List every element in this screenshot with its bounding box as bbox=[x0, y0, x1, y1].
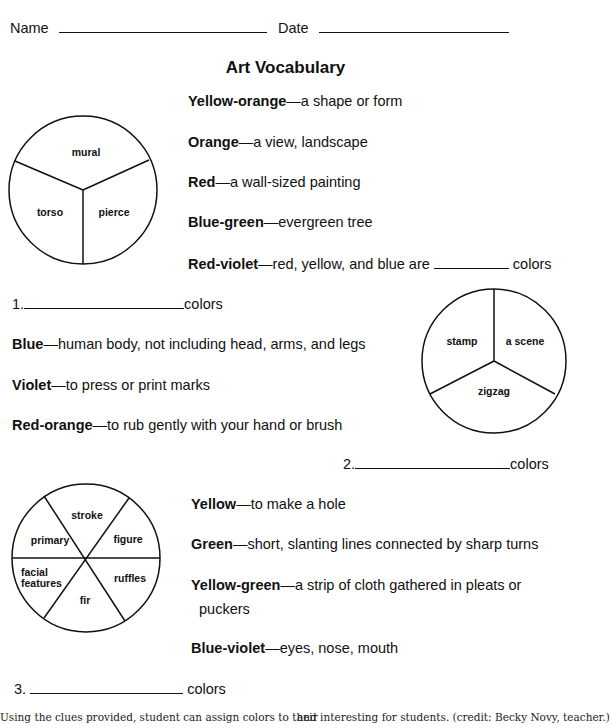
definition-suffix: colors bbox=[513, 256, 552, 272]
wheel3-segment-top-left[interactable]: primary bbox=[31, 534, 70, 546]
color-term: Violet bbox=[12, 377, 51, 393]
color-term: Green bbox=[191, 536, 233, 552]
definition-text: —short, slanting lines connected by shar… bbox=[233, 536, 538, 552]
definition-text: —a strip of cloth gathered in pleats or bbox=[280, 577, 521, 593]
name-input-line[interactable] bbox=[59, 32, 267, 33]
color-term: Yellow bbox=[191, 496, 236, 512]
answer-number: 1. bbox=[12, 296, 24, 312]
answer-1-blank[interactable] bbox=[24, 308, 184, 309]
answer-suffix: colors bbox=[510, 456, 549, 472]
wheel2-segment-right[interactable]: a scene bbox=[506, 335, 545, 347]
color-wheel-3: stroke figure ruffles fir facial feature… bbox=[10, 480, 162, 635]
page-title: Art Vocabulary bbox=[0, 58, 571, 78]
red-violet-blank[interactable] bbox=[434, 268, 509, 269]
wheel3-segment-bottom-right[interactable]: ruffles bbox=[114, 572, 146, 584]
color-term: Orange bbox=[188, 134, 239, 150]
name-label: Name bbox=[10, 20, 49, 36]
color-wheel-2: stamp a scene zigzag bbox=[420, 286, 568, 438]
color-wheel-1: mural torso pierce bbox=[8, 113, 160, 268]
definition-violet: Violet—to press or print marks bbox=[12, 377, 210, 393]
answer-2-row: 2.colors bbox=[343, 456, 549, 472]
caption-left: Using the clues provided, student can as… bbox=[0, 711, 318, 723]
definition-red-violet: Red-violet—red, yellow, and blue are col… bbox=[188, 256, 552, 272]
definition-text: —human body, not including head, arms, a… bbox=[43, 336, 365, 352]
definition-yellow: Yellow—to make a hole bbox=[191, 496, 346, 512]
definition-red-orange: Red-orange—to rub gently with your hand … bbox=[12, 417, 342, 433]
answer-suffix: colors bbox=[184, 296, 223, 312]
wheel1-segment-right[interactable]: pierce bbox=[99, 206, 130, 218]
answer-2-blank[interactable] bbox=[355, 468, 510, 469]
definition-text: —to rub gently with your hand or brush bbox=[93, 417, 343, 433]
definition-yellow-green-line2: puckers bbox=[199, 601, 250, 617]
date-field-row: Date bbox=[278, 20, 509, 36]
definition-red: Red—a wall-sized painting bbox=[188, 174, 360, 190]
definition-blue: Blue—human body, not including head, arm… bbox=[12, 336, 366, 352]
color-term: Blue-green bbox=[188, 214, 264, 230]
definition-text: —a shape or form bbox=[286, 93, 402, 109]
color-term: Blue bbox=[12, 336, 43, 352]
color-term: Red-violet bbox=[188, 256, 258, 272]
definition-yellow-orange: Yellow-orange—a shape or form bbox=[188, 93, 402, 109]
wheel3-segment-bottom-left-line2[interactable]: features bbox=[21, 577, 62, 589]
definition-text: —eyes, nose, mouth bbox=[265, 640, 398, 656]
definition-green: Green—short, slanting lines connected by… bbox=[191, 536, 538, 552]
wheel3-segment-bottom[interactable]: fir bbox=[80, 594, 91, 606]
definition-blue-violet: Blue-violet—eyes, nose, mouth bbox=[191, 640, 398, 656]
wheel2-segment-bottom[interactable]: zigzag bbox=[478, 385, 510, 397]
wheel1-segment-top[interactable]: mural bbox=[72, 146, 101, 158]
color-term: Blue-violet bbox=[191, 640, 265, 656]
wheel3-segment-top[interactable]: stroke bbox=[71, 509, 103, 521]
color-term: Yellow-orange bbox=[188, 93, 286, 109]
definition-text: —to press or print marks bbox=[51, 377, 210, 393]
definition-yellow-green: Yellow-green—a strip of cloth gathered i… bbox=[191, 577, 521, 593]
answer-3-blank[interactable] bbox=[30, 693, 183, 694]
wheel3-segment-top-right[interactable]: figure bbox=[113, 533, 142, 545]
caption-right: and interesting for students. (credit: B… bbox=[297, 711, 610, 723]
color-term: Yellow-green bbox=[191, 577, 280, 593]
definition-blue-green: Blue-green—evergreen tree bbox=[188, 214, 373, 230]
answer-number: 3. bbox=[14, 681, 26, 697]
wheel1-segment-left[interactable]: torso bbox=[37, 206, 63, 218]
date-input-line[interactable] bbox=[319, 32, 509, 33]
definition-orange: Orange—a view, landscape bbox=[188, 134, 368, 150]
answer-3-row: 3. colors bbox=[14, 681, 226, 697]
definition-text: —a wall-sized painting bbox=[215, 174, 360, 190]
answer-suffix: colors bbox=[187, 681, 226, 697]
definition-text: —to make a hole bbox=[236, 496, 346, 512]
definition-text: —a view, landscape bbox=[239, 134, 368, 150]
color-term: Red-orange bbox=[12, 417, 93, 433]
definition-text: —evergreen tree bbox=[264, 214, 373, 230]
answer-1-row: 1.colors bbox=[12, 296, 223, 312]
answer-number: 2. bbox=[343, 456, 355, 472]
wheel2-segment-left[interactable]: stamp bbox=[447, 335, 478, 347]
definition-text: —red, yellow, and blue are bbox=[258, 256, 430, 272]
color-term: Red bbox=[188, 174, 215, 190]
date-label: Date bbox=[278, 20, 309, 36]
name-field-row: Name bbox=[10, 20, 267, 36]
